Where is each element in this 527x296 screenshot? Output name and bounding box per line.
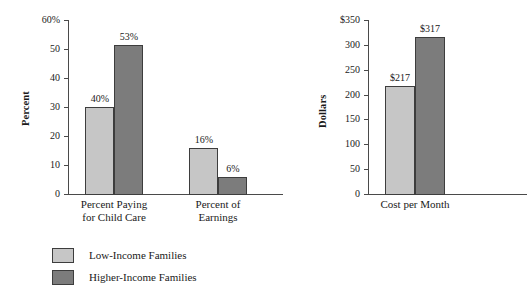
dollars-chart: Dollars 0 50 100 150 200 250 300 $350 $2… [300,0,489,230]
percent-chart-y-tick-40 [64,78,69,79]
percent-chart-category-label-child-care: Percent Paying for Child Care [64,198,164,223]
category-label-line-1: Percent of [196,198,241,210]
percent-chart-y-tick-label-30: 30 [18,102,60,112]
percent-chart-y-tick-label-40: 40 [18,73,60,83]
bar-higher-income-cost-per-month [415,37,445,195]
dollars-chart-y-tick-label-50: 50 [314,164,360,174]
percent-chart-y-tick-20 [64,136,69,137]
legend-label-low-income: Low-Income Families [89,248,186,263]
percent-chart-y-tick-label-20: 20 [18,131,60,141]
legend-label-higher-income: Higher-Income Families [89,270,197,285]
dollars-chart-category-label-cost-per-month: Cost per Month [365,198,465,211]
percent-chart-y-tick-label-50: 50 [18,44,60,54]
bar-label-higher-income-earnings: 6% [213,164,253,174]
dollars-chart-y-tick-label-350: $350 [314,15,360,25]
bar-low-income-child-care [85,107,114,195]
dollars-chart-y-tick-label-0: 0 [314,189,360,199]
category-label-line-2: for Child Care [82,211,146,223]
category-label-line-1: Percent Paying [81,198,147,210]
dollars-chart-y-tick-label-300: 300 [314,40,360,50]
bar-higher-income-child-care [114,45,143,195]
percent-chart-y-tick-60 [64,20,69,21]
category-label-line-2: Earnings [198,211,237,223]
percent-chart-y-tick-label-0: 0 [18,189,60,199]
bar-higher-income-earnings [218,177,247,195]
legend-swatch-icon-low-income [52,248,74,263]
dollars-chart-y-tick-0 [364,194,369,195]
dollars-chart-y-tick-250 [364,70,369,71]
percent-chart-y-tick-label-60: 60% [18,15,60,25]
dollars-chart-y-tick-350 [364,20,369,21]
percent-chart: Percent 0 10 20 30 40 50 60% 40% 53% 16%… [0,0,300,230]
legend-swatch-icon-higher-income [52,270,74,285]
dollars-chart-y-tick-100 [364,144,369,145]
bar-label-low-income-earnings: 16% [184,135,224,145]
percent-chart-category-label-earnings: Percent of Earnings [168,198,268,223]
percent-chart-y-tick-30 [64,107,69,108]
dollars-chart-y-tick-label-250: 250 [314,65,360,75]
category-label-line-1: Cost per Month [380,198,449,210]
dollars-chart-y-tick-150 [364,119,369,120]
percent-chart-y-tick-0 [64,194,69,195]
percent-chart-y-tick-10 [64,165,69,166]
dollars-chart-y-tick-label-100: 100 [314,139,360,149]
percent-chart-y-tick-50 [64,49,69,50]
percent-chart-y-tick-label-10: 10 [18,160,60,170]
dollars-chart-y-tick-200 [364,95,369,96]
bar-label-higher-income-cost-per-month: $317 [408,24,452,34]
dollars-chart-y-tick-50 [364,169,369,170]
dollars-chart-y-tick-label-200: 200 [314,90,360,100]
bar-low-income-cost-per-month [385,86,415,195]
bar-label-higher-income-child-care: 53% [109,32,149,42]
dollars-chart-y-tick-label-150: 150 [314,114,360,124]
dollars-chart-y-tick-300 [364,45,369,46]
